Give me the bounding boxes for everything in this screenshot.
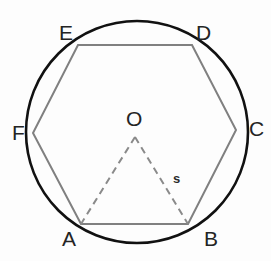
- circumscribed-circle: [26, 21, 248, 243]
- figure-canvas: [0, 0, 271, 261]
- geometry-figure: A B C D E F O s: [0, 0, 271, 261]
- vertex-label-a: A: [62, 228, 76, 249]
- vertex-label-c: C: [249, 118, 264, 139]
- center-label-o: O: [126, 108, 142, 129]
- radius-segment-oa: [81, 137, 135, 224]
- vertex-label-f: F: [12, 122, 25, 143]
- vertex-label-d: D: [196, 22, 211, 43]
- inscribed-hexagon: [33, 45, 236, 224]
- vertex-label-b: B: [204, 228, 218, 249]
- side-length-label-s: s: [173, 172, 180, 185]
- vertex-label-e: E: [59, 22, 73, 43]
